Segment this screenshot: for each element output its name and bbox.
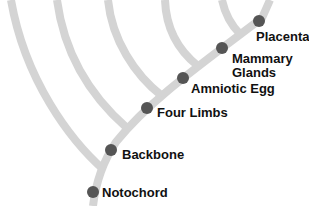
label-amniotic-egg: Amniotic Egg (191, 82, 275, 96)
branch-2 (57, 0, 127, 128)
label-placenta: Placenta (256, 30, 309, 44)
label-four-limbs: Four Limbs (157, 106, 228, 120)
node-placenta (253, 15, 265, 27)
trunk-branch (93, 0, 270, 206)
branch-3 (108, 0, 162, 96)
branch-4 (165, 0, 198, 66)
label-backbone: Backbone (122, 148, 184, 162)
label-mammary-line2: Glands (232, 66, 276, 80)
node-amniotic-egg (177, 72, 189, 84)
node-four-limbs (141, 102, 153, 114)
label-mammary-line1: Mammary (232, 52, 293, 66)
label-notochord: Notochord (102, 186, 168, 200)
node-mammary-glands (216, 42, 228, 54)
node-backbone (105, 144, 117, 156)
node-notochord (87, 186, 99, 198)
branch-5 (222, 0, 240, 34)
